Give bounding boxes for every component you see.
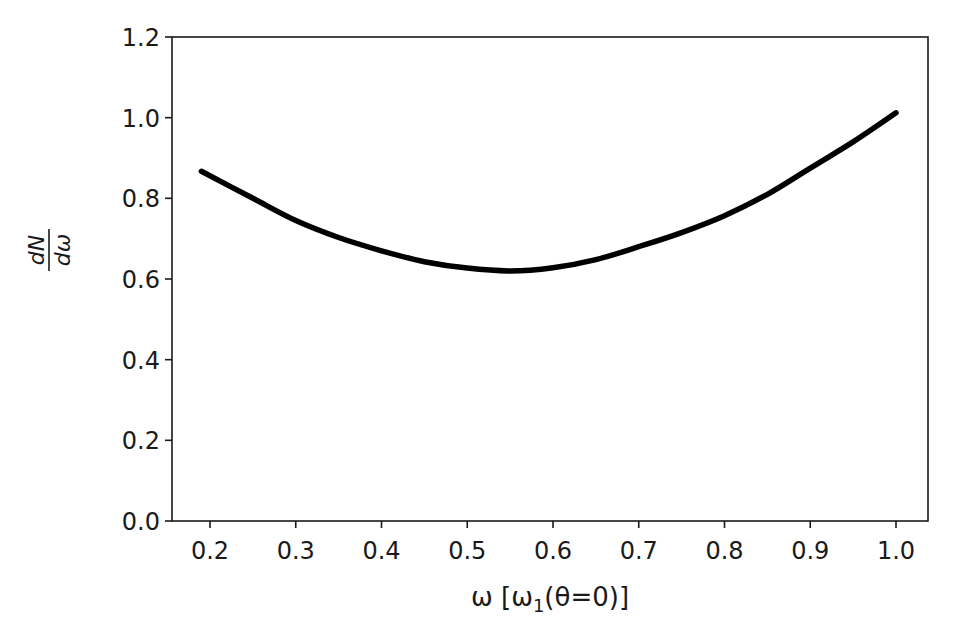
x-tick-label: 0.8 (705, 537, 743, 565)
chart: 0.00.20.40.60.81.01.2 0.20.30.40.50.60.7… (0, 0, 954, 636)
x-tick-label: 0.6 (534, 537, 572, 565)
y-axis-ticks: 0.00.20.40.60.81.01.2 (122, 24, 172, 536)
x-tick-label: 1.0 (877, 537, 915, 565)
y-tick-label: 0.6 (122, 266, 160, 294)
plot-area (172, 37, 928, 521)
x-tick-label: 0.4 (362, 537, 400, 565)
x-tick-label: 0.2 (191, 537, 229, 565)
x-tick-label: 0.7 (620, 537, 658, 565)
y-tick-label: 1.0 (122, 105, 160, 133)
x-axis-label-tail: (θ=0)] (544, 582, 629, 612)
y-axis-label-numerator: dN (24, 235, 49, 265)
x-axis-label-sub: 1 (533, 595, 544, 616)
x-tick-label: 0.5 (448, 537, 486, 565)
y-tick-label: 1.2 (122, 24, 160, 52)
y-tick-label: 0.4 (122, 347, 160, 375)
y-tick-label: 0.8 (122, 185, 160, 213)
x-tick-label: 0.9 (791, 537, 829, 565)
y-axis-label-denominator: dω (50, 234, 75, 266)
x-axis-label-main: ω [ω (471, 582, 533, 612)
x-tick-label: 0.3 (277, 537, 315, 565)
y-tick-label: 0.2 (122, 427, 160, 455)
y-tick-label: 0.0 (122, 508, 160, 536)
x-axis-ticks: 0.20.30.40.50.60.70.80.91.0 (191, 521, 915, 565)
x-axis-label: ω [ω1(θ=0)] (471, 582, 629, 616)
y-axis-label: dN dω (24, 229, 75, 271)
